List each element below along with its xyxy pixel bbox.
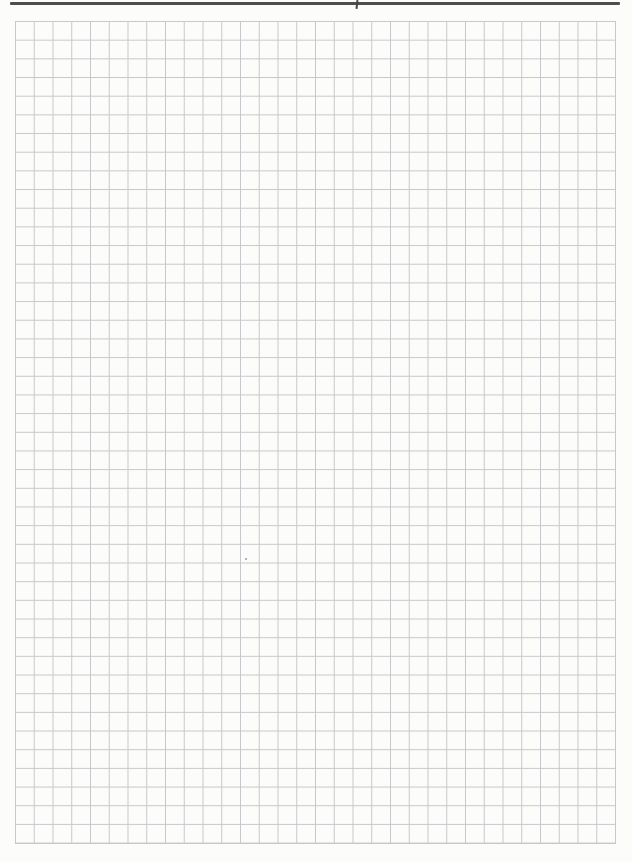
graph-paper-grid — [15, 21, 616, 844]
scan-speck — [245, 558, 247, 560]
header-rule — [10, 2, 620, 5]
